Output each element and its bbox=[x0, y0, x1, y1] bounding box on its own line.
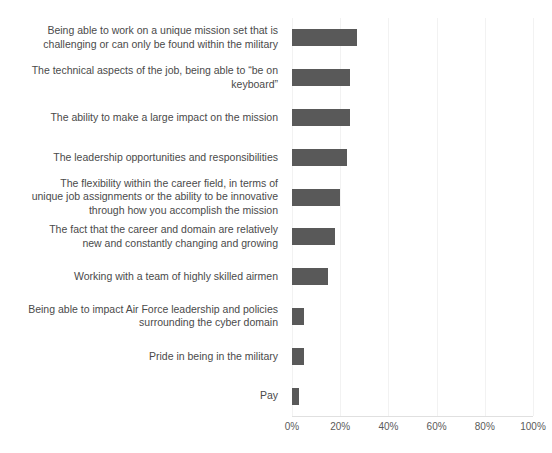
plot-area bbox=[292, 18, 533, 416]
bar-row bbox=[292, 217, 533, 257]
bar bbox=[292, 149, 347, 166]
bar-row bbox=[292, 177, 533, 217]
bar bbox=[292, 69, 350, 86]
category-label: The technical aspects of the job, being … bbox=[8, 58, 278, 98]
category-label-line: The flexibility within the career field,… bbox=[32, 177, 278, 191]
category-label: The ability to make a large impact on th… bbox=[8, 98, 278, 138]
category-label-line: new and constantly changing and growing bbox=[49, 237, 278, 251]
category-label-line: surrounding the cyber domain bbox=[28, 316, 278, 330]
bar bbox=[292, 388, 299, 405]
category-label: The fact that the career and domain are … bbox=[8, 217, 278, 257]
category-label-line: Being able to work on a unique mission s… bbox=[43, 24, 278, 38]
category-label-line: The fact that the career and domain are … bbox=[49, 223, 278, 237]
x-tick-label: 20% bbox=[318, 421, 362, 432]
bar-row bbox=[292, 297, 533, 337]
x-tick-label: 40% bbox=[366, 421, 410, 432]
category-label-line: Working with a team of highly skilled ai… bbox=[74, 270, 278, 284]
category-label: The leadership opportunities and respons… bbox=[8, 137, 278, 177]
category-label: Pride in being in the military bbox=[8, 336, 278, 376]
bar bbox=[292, 308, 304, 325]
category-label-line: Being able to impact Air Force leadershi… bbox=[28, 303, 278, 317]
category-axis-labels: Being able to work on a unique mission s… bbox=[8, 18, 286, 416]
category-label-line: The technical aspects of the job, being … bbox=[32, 64, 278, 78]
bar bbox=[292, 348, 304, 365]
category-label-line: The ability to make a large impact on th… bbox=[50, 111, 278, 125]
bar-row bbox=[292, 257, 533, 297]
bar bbox=[292, 189, 340, 206]
category-label: Being able to work on a unique mission s… bbox=[8, 18, 278, 58]
category-label-line: Pay bbox=[260, 389, 278, 403]
bar-row bbox=[292, 137, 533, 177]
bar-row bbox=[292, 98, 533, 138]
bar-row bbox=[292, 18, 533, 58]
bar bbox=[292, 268, 328, 285]
x-tick-label: 80% bbox=[463, 421, 507, 432]
category-label: Working with a team of highly skilled ai… bbox=[8, 257, 278, 297]
bar-chart-figure: Being able to work on a unique mission s… bbox=[0, 0, 552, 453]
category-label: The flexibility within the career field,… bbox=[8, 177, 278, 217]
category-label: Being able to impact Air Force leadershi… bbox=[8, 297, 278, 337]
bar-rows bbox=[292, 18, 533, 416]
bar-row bbox=[292, 336, 533, 376]
bar bbox=[292, 109, 350, 126]
bar-row bbox=[292, 58, 533, 98]
category-label-line: The leadership opportunities and respons… bbox=[53, 151, 278, 165]
x-axis-tick-labels: 0%20%40%60%80%100% bbox=[292, 421, 533, 437]
category-label: Pay bbox=[8, 376, 278, 416]
gridline-100pct bbox=[533, 18, 534, 416]
x-axis-line bbox=[292, 416, 533, 417]
bar-row bbox=[292, 376, 533, 416]
category-label-line: keyboard” bbox=[32, 78, 278, 92]
x-tick-label: 100% bbox=[511, 421, 552, 432]
category-label-line: challenging or can only be found within … bbox=[43, 38, 278, 52]
category-label-line: through how you accomplish the mission bbox=[32, 204, 278, 218]
bar bbox=[292, 228, 335, 245]
category-label-line: Pride in being in the military bbox=[149, 350, 278, 364]
x-tick-label: 0% bbox=[270, 421, 314, 432]
bar bbox=[292, 29, 357, 46]
x-tick-label: 60% bbox=[415, 421, 459, 432]
category-label-line: unique job assignments or the ability to… bbox=[32, 190, 278, 204]
